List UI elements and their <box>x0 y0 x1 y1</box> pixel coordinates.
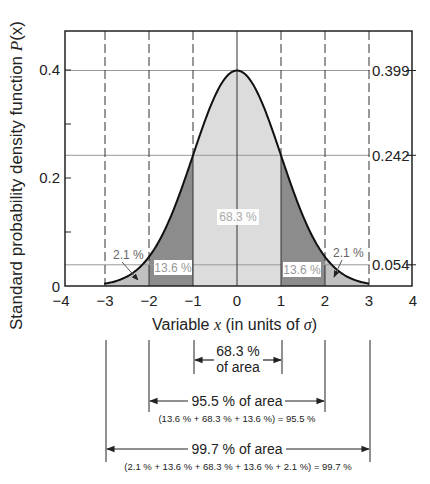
x-tick: −2 <box>140 292 157 309</box>
tail-right-pct-label: 2.1 % <box>333 246 364 260</box>
x-tick: −3 <box>96 292 113 309</box>
x-tick: −1 <box>184 292 201 309</box>
three-sigma-formula: (2.1 % + 13.6 % + 68.3 % + 13.6 % + 2.1 … <box>124 461 352 472</box>
x-tick: 2 <box>321 292 329 309</box>
two-sigma-label: 95.5 % of area <box>191 393 282 409</box>
one-sigma-of-area: of area <box>216 359 260 375</box>
tail-left-pct-label: 2.1 % <box>113 248 144 262</box>
y-tick-labels: 0.4 0.2 0 <box>39 61 60 295</box>
right-value-labels: 0.399 0.242 0.054 <box>370 62 410 273</box>
three-sigma-label: 99.7 % of area <box>191 441 282 457</box>
mid-right-pct-label: 13.6 % <box>283 263 321 277</box>
x-tick: 1 <box>277 292 285 309</box>
label-0054: 0.054 <box>372 256 410 273</box>
y-axis-label: Standard probability density function P(… <box>7 21 26 330</box>
y-tick-02: 0.2 <box>39 169 60 186</box>
x-tick: 0 <box>233 292 241 309</box>
two-sigma-annotation: 95.5 % of area (13.6 % + 68.3 % + 13.6 %… <box>150 393 324 424</box>
one-sigma-pct: 68.3 % <box>216 343 260 359</box>
x-axis-label: Variable x (in units of σ) <box>152 316 317 333</box>
x-tick-labels: −4 −3 −2 −1 0 1 2 3 4 <box>52 292 417 309</box>
y-tick-04: 0.4 <box>39 61 60 78</box>
label-0399: 0.399 <box>372 62 410 79</box>
x-tick: −4 <box>52 292 69 309</box>
x-tick: 4 <box>409 292 417 309</box>
one-sigma-annotation: 68.3 % of area <box>195 343 281 375</box>
x-tick: 3 <box>365 292 373 309</box>
center-pct-label: 68.3 % <box>219 210 257 224</box>
mid-left-pct-label: 13.6 % <box>154 261 192 275</box>
label-0242: 0.242 <box>372 147 410 164</box>
normal-distribution-chart: 0.4 0.2 0 0.399 0.242 0.054 −4 −3 −2 −1 … <box>0 0 430 484</box>
two-sigma-formula: (13.6 % + 68.3 % + 13.6 %) = 95.5 % <box>158 413 316 424</box>
three-sigma-annotation: 99.7 % of area (2.1 % + 13.6 % + 68.3 % … <box>107 441 369 472</box>
